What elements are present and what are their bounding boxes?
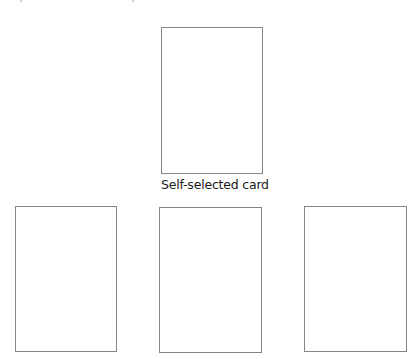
artifact-mark [20,0,22,2]
self-selected-card-label: Self-selected card [161,177,263,192]
card-right [304,206,407,352]
self-selected-card [161,27,263,174]
card-middle [159,207,262,353]
artifact-mark [132,0,134,2]
card-left [15,206,117,352]
